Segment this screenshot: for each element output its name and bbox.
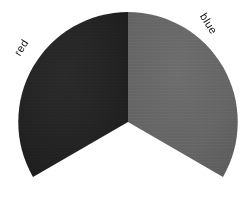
pie-chart-canvas: red blue	[0, 0, 240, 199]
pie-chart: red blue	[0, 0, 240, 199]
